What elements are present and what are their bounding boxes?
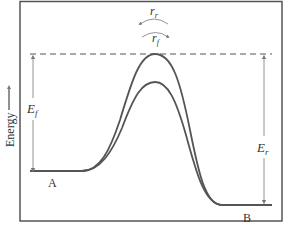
rf-label: rf: [152, 31, 161, 47]
state-b-label: B: [243, 211, 251, 225]
y-axis-label: Energy: [3, 113, 17, 147]
plot-frame: [20, 2, 282, 222]
rr-label: rr: [150, 4, 159, 20]
state-a-label: A: [48, 176, 57, 190]
inner-curve: [82, 82, 222, 205]
ef-label: Ef: [26, 101, 39, 118]
outer-curve: [30, 54, 272, 205]
energy-diagram: Ef Er rr rf A B Energy: [0, 0, 286, 229]
er-label: Er: [256, 140, 269, 157]
